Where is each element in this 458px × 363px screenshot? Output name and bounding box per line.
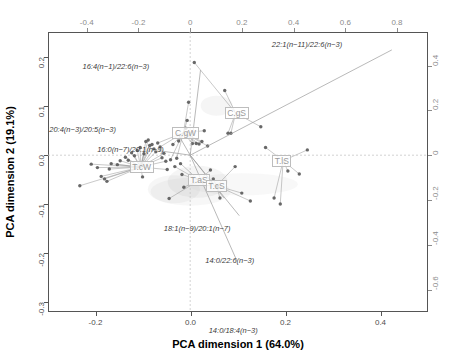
y-axis-title: PCA dimension 2 (19.1%) <box>4 106 16 238</box>
x-top-tick-mark <box>345 28 346 32</box>
y-right-tick-label: 0.4 <box>431 54 440 65</box>
y-right-tick-label: -0.4 <box>431 231 440 245</box>
y-tick-label: 0.1 <box>37 106 46 117</box>
x-tick-mark <box>96 312 97 316</box>
x-axis-title: PCA dimension 1 (64.0%) <box>172 338 304 350</box>
plot-frame <box>48 32 428 312</box>
plot-area <box>49 33 427 311</box>
y-right-tick-mark <box>428 110 432 111</box>
y-tick-label: -0.1 <box>37 204 46 218</box>
group-label-t-ls: T.lS <box>272 155 291 167</box>
x-top-tick-label: 0.8 <box>391 18 402 27</box>
y-right-tick-label: 0 <box>431 151 440 155</box>
y-right-tick-label: 0.2 <box>431 99 440 110</box>
vector-label: 22:1(n−11)/22:6(n−3) <box>272 40 342 49</box>
x-tick-label: 0.0 <box>185 318 196 327</box>
vector-label: 16:4(n−1)/22:6(n−3) <box>83 62 150 71</box>
x-tick-label: -0.2 <box>89 318 103 327</box>
y-right-tick-mark <box>428 200 432 201</box>
x-top-tick-mark <box>242 28 243 32</box>
y-right-tick-label: -0.6 <box>431 276 440 290</box>
vector-label: 18:1(n−9)/20:1(n−7) <box>164 224 231 233</box>
pca-biplot: -0.20.00.20.4-0.3-0.2-0.10.00.10.2-0.4-0… <box>0 0 458 363</box>
x-top-tick-label: 0.2 <box>236 18 247 27</box>
x-top-tick-label: 0.4 <box>288 18 299 27</box>
x-top-tick-label: 0 <box>188 18 192 27</box>
y-tick-label: -0.3 <box>37 302 46 316</box>
x-top-tick-label: -0.4 <box>80 18 94 27</box>
x-tick-mark <box>381 312 382 316</box>
x-top-tick-mark <box>190 28 191 32</box>
vector-label: 16:0(n−7)/20:1(n−9) <box>97 145 164 154</box>
y-tick-label: -0.2 <box>37 253 46 267</box>
x-tick-label: 0.2 <box>280 318 291 327</box>
y-tick-label: 0.0 <box>37 155 46 166</box>
group-label-c-gs: C.gS <box>225 107 249 119</box>
group-label-c-gw: C.gW <box>172 127 198 139</box>
x-top-tick-mark <box>87 28 88 32</box>
x-top-tick-mark <box>138 28 139 32</box>
y-right-tick-mark <box>428 155 432 156</box>
y-right-tick-label: -0.2 <box>431 186 440 200</box>
x-top-tick-label: 0.6 <box>340 18 351 27</box>
x-top-tick-label: -0.2 <box>132 18 146 27</box>
x-tick-mark <box>191 312 192 316</box>
vector-label: 14:0/22:6(n−3) <box>205 256 254 265</box>
x-top-tick-mark <box>294 28 295 32</box>
x-tick-mark <box>286 312 287 316</box>
group-label-t-cs: T.cS <box>206 180 228 192</box>
y-tick-label: 0.2 <box>37 57 46 68</box>
x-top-tick-mark <box>397 28 398 32</box>
vector-label: 14:0/18:4(n−3) <box>209 326 258 335</box>
group-label-t-cw: T.cW <box>130 161 154 173</box>
vector-label: 20:4(n−3)/20:5(n−3) <box>49 125 116 134</box>
x-tick-label: 0.4 <box>375 318 386 327</box>
